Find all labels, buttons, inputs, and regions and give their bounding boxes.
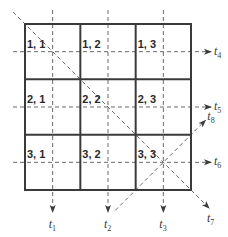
cell-label: 3, 2	[82, 148, 100, 160]
cell-label: 1, 3	[138, 38, 156, 50]
direction-label-t1: t1	[49, 217, 56, 233]
direction-label-t7: t7	[207, 211, 214, 227]
direction-label-t4: t4	[214, 44, 221, 60]
cell-label: 3, 3	[138, 148, 156, 160]
cell-label: 2, 3	[138, 93, 156, 105]
cell-labels: 1, 11, 21, 32, 12, 22, 33, 13, 23, 3	[27, 38, 156, 161]
direction-label-t6: t6	[214, 154, 221, 170]
cell-label: 2, 1	[27, 93, 45, 105]
grid-diagram: 1, 11, 21, 32, 12, 22, 33, 13, 23, 3 t1t…	[0, 0, 228, 237]
direction-label-t3: t3	[159, 217, 166, 233]
cell-label: 1, 2	[82, 38, 100, 50]
cell-label: 3, 1	[27, 148, 45, 160]
cell-label: 2, 2	[82, 93, 100, 105]
direction-label-t2: t2	[104, 217, 111, 233]
cell-label: 1, 1	[27, 38, 45, 50]
direction-label-t5: t5	[214, 99, 221, 115]
